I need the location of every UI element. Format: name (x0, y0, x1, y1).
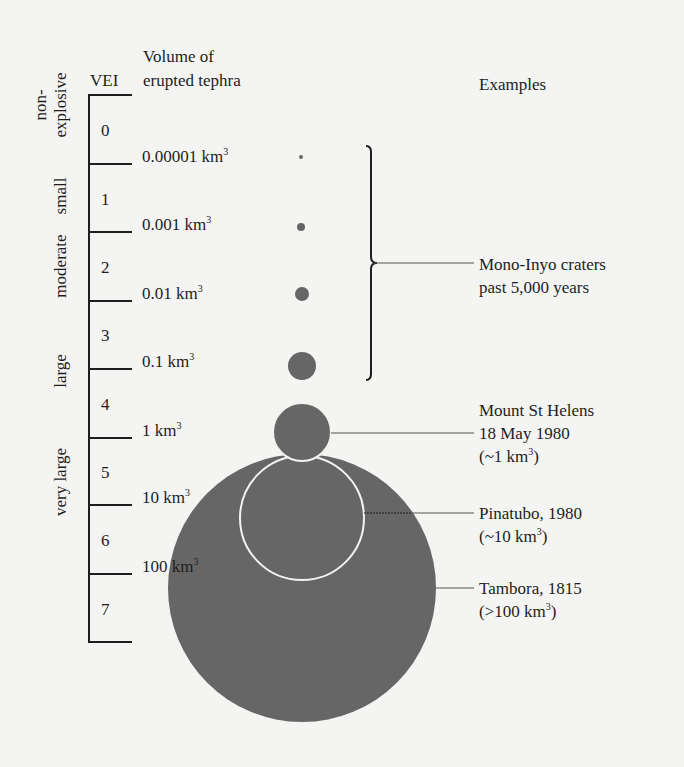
volume-text: (>100 km (479, 602, 546, 621)
example-volume: (>100 km3) (479, 600, 582, 623)
vei-level-6: 6 (101, 531, 110, 550)
category-large: large (51, 354, 70, 388)
example-detail: past 5,000 years (479, 276, 606, 299)
category-moderate: moderate (51, 234, 70, 297)
example-tambora: Tambora, 1815 (>100 km3) (479, 577, 582, 623)
volume-unit: km (155, 421, 177, 440)
volume-exponent: 3 (176, 420, 181, 431)
examples-title: Examples (479, 75, 546, 94)
circle-pinatubo-10km3 (240, 456, 364, 580)
category-non-explosive-line1: non- (31, 89, 50, 121)
volume-text: (~10 km (479, 527, 537, 546)
volume-value: 1 (142, 421, 151, 440)
vei-diagram: non- explosive small moderate large very… (0, 0, 684, 767)
example-volume: (~1 km3) (479, 445, 594, 468)
category-very-large: very large (51, 448, 70, 516)
volume-close: ) (542, 527, 548, 546)
volume-label-2: 0.01 km3 (142, 284, 203, 304)
vei-level-1: 1 (101, 190, 110, 209)
example-mount-st-helens: Mount St Helens 18 May 1980 (~1 km3) (479, 399, 594, 468)
vei-level-3: 3 (101, 326, 110, 345)
volume-exponent: 3 (185, 487, 190, 498)
example-mono-inyo: Mono-Inyo craters past 5,000 years (479, 253, 606, 299)
circle-0-001km3 (297, 223, 305, 231)
volume-label-3: 0.1 km3 (142, 352, 194, 372)
volume-unit: km (168, 352, 190, 371)
volume-exponent: 3 (198, 283, 203, 294)
vei-level-0: 0 (101, 121, 110, 140)
vei-level-5: 5 (101, 463, 110, 482)
volume-label-0: 0.00001 km3 (142, 147, 228, 167)
volume-title-line1: Volume of (143, 47, 214, 66)
example-name: Mono-Inyo craters (479, 253, 606, 276)
volume-unit: km (202, 147, 224, 166)
volume-label-1: 0.001 km3 (142, 215, 211, 235)
volume-close: ) (533, 447, 539, 466)
volume-exponent: 3 (223, 146, 228, 157)
volume-text: (~1 km (479, 447, 528, 466)
category-small: small (51, 177, 70, 214)
volume-value: 10 (142, 488, 159, 507)
example-name: Mount St Helens (479, 399, 594, 422)
volume-exponent: 3 (193, 556, 198, 567)
volume-value: 0.01 (142, 284, 172, 303)
circle-0-1km3 (288, 352, 316, 380)
vei-level-7: 7 (101, 600, 110, 619)
example-date: 18 May 1980 (479, 422, 594, 445)
circle-0-01km3 (295, 287, 309, 301)
category-labels: non- explosive small moderate large very… (31, 72, 70, 516)
volume-unit: km (176, 284, 198, 303)
volume-exponent: 3 (206, 214, 211, 225)
volume-value: 100 (142, 557, 168, 576)
example-name: Pinatubo, 1980 (479, 502, 582, 525)
vei-level-2: 2 (101, 258, 110, 277)
example-name: Tambora, 1815 (479, 577, 582, 600)
volume-unit: km (172, 557, 194, 576)
vei-level-4: 4 (101, 395, 110, 414)
circle-0-00001km3 (299, 155, 303, 159)
circle-st-helens-1km3 (273, 403, 331, 461)
example-volume: (~10 km3) (479, 525, 582, 548)
volume-label-4: 1 km3 (142, 421, 181, 441)
category-non-explosive-line2: explosive (51, 72, 70, 137)
volume-exponent: 3 (189, 351, 194, 362)
volume-unit: km (163, 488, 185, 507)
volume-value: 0.001 (142, 215, 180, 234)
vei-axis-title: VEI (90, 71, 119, 90)
volume-title-line2: erupted tephra (143, 71, 241, 90)
volume-circles (168, 155, 436, 722)
volume-label-5: 10 km3 (142, 488, 190, 508)
volume-value: 0.1 (142, 352, 163, 371)
volume-close: ) (551, 602, 557, 621)
volume-unit: km (185, 215, 207, 234)
vei-axis (88, 95, 132, 642)
volume-label-6: 100 km3 (142, 557, 198, 577)
volume-value: 0.00001 (142, 147, 197, 166)
example-pinatubo: Pinatubo, 1980 (~10 km3) (479, 502, 582, 548)
